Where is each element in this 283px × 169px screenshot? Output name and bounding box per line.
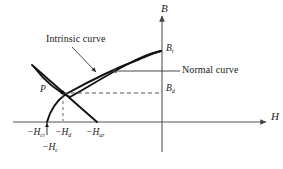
point-p-marker [60, 90, 64, 94]
bd-label-sub: d [172, 88, 175, 94]
b-axis-label: B [161, 3, 168, 14]
har-label-main: −H [86, 127, 99, 137]
hd-label-sub: d [68, 132, 71, 138]
bd-label: Bd [166, 84, 175, 94]
intrinsic-curve-annotation: Intrinsic curve [46, 34, 106, 44]
br-label-main: B [166, 43, 172, 53]
curve-group [32, 51, 161, 122]
construction-line-group [63, 93, 160, 121]
hd-label-main: −H [55, 127, 68, 137]
hd-label: −Hd [55, 128, 71, 138]
br-label: Br [166, 44, 174, 54]
h-axis-label: H [271, 111, 279, 122]
har-label: −Har [86, 128, 105, 138]
hc-label-main: −H [42, 142, 55, 152]
br-label-sub: r [172, 48, 174, 54]
normal-curve [47, 51, 161, 122]
normal-curve-annotation: Normal curve [182, 65, 238, 75]
har-label-sub: ar [99, 132, 104, 138]
hci-label-sub: ci [40, 132, 44, 138]
bd-label-main: B [166, 83, 172, 93]
bh-curve-figure: B H Br Bd P −Hci −Hd −Har −Hc Intrinsic … [0, 0, 283, 169]
point-p-label: P [40, 85, 46, 95]
hc-label: −Hc [42, 143, 58, 153]
hci-label: −Hci [27, 128, 45, 138]
intrinsic-curve-leader [72, 47, 96, 72]
hc-label-sub: c [55, 147, 58, 153]
hci-label-main: −H [27, 127, 40, 137]
